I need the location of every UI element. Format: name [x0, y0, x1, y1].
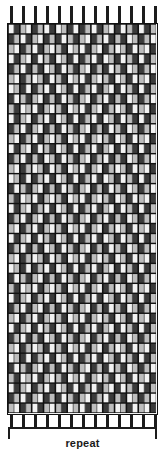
- repeat-label: repeat: [0, 437, 165, 449]
- tick-mark: [10, 6, 13, 23]
- tick-mark: [46, 6, 49, 23]
- tick-mark: [142, 414, 145, 428]
- tick-mark: [82, 414, 85, 428]
- tick-mark: [142, 6, 145, 23]
- tick-mark: [58, 6, 61, 23]
- tick-mark: [130, 6, 133, 23]
- top-tick-row: [0, 6, 165, 22]
- tick-mark: [154, 6, 157, 23]
- tick-mark: [106, 6, 109, 23]
- tick-mark: [94, 6, 97, 23]
- tick-mark: [94, 414, 97, 428]
- tick-mark: [118, 414, 121, 428]
- tick-mark: [130, 414, 133, 428]
- tick-mark: [118, 6, 121, 23]
- tick-mark: [46, 414, 49, 428]
- tick-mark: [70, 414, 73, 428]
- tick-mark: [70, 6, 73, 23]
- tick-mark: [22, 6, 25, 23]
- pattern-grid-canvas: [8, 24, 156, 413]
- tick-mark: [34, 6, 37, 23]
- tick-mark: [22, 414, 25, 428]
- tick-mark: [154, 414, 157, 428]
- pattern-grid: [7, 23, 158, 415]
- tick-mark: [10, 414, 13, 428]
- tick-mark: [34, 414, 37, 428]
- tick-mark: [58, 414, 61, 428]
- weaving-draft-figure: repeat: [0, 0, 165, 452]
- tick-mark: [106, 414, 109, 428]
- tick-mark: [82, 6, 85, 23]
